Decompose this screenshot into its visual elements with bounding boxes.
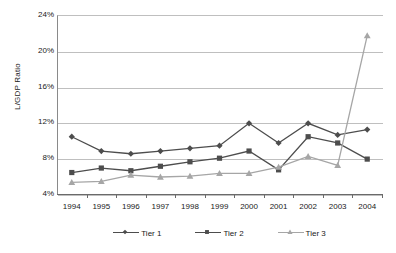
legend-marker-square-icon: [204, 229, 210, 235]
legend-marker-diamond-icon: [122, 229, 128, 235]
legend-swatch: [278, 228, 304, 238]
series-overlay: [0, 0, 396, 253]
legend-label: Tier 3: [306, 229, 326, 238]
data-point-marker: [99, 165, 104, 170]
line-chart: L/GDP Ratio 4%8%12%16%20%24% 19941995199…: [0, 0, 396, 253]
data-point-marker: [158, 164, 163, 169]
series-tier-1: [69, 120, 371, 157]
data-point-marker: [246, 148, 251, 153]
legend-item-tier-1[interactable]: Tier 1: [113, 228, 161, 238]
legend-item-tier-3[interactable]: Tier 3: [278, 228, 326, 238]
data-point-marker: [69, 170, 74, 175]
series-tier-3: [68, 32, 370, 185]
data-point-marker: [157, 148, 163, 154]
data-point-marker: [365, 156, 370, 161]
data-point-marker: [287, 229, 292, 234]
legend-item-tier-2[interactable]: Tier 2: [195, 228, 243, 238]
data-point-marker: [335, 132, 341, 138]
data-point-marker: [187, 159, 192, 164]
chart-legend: Tier 1Tier 2Tier 3: [57, 224, 382, 242]
series-line: [72, 137, 367, 173]
legend-label: Tier 2: [223, 229, 243, 238]
series-tier-2: [69, 134, 370, 175]
data-point-marker: [364, 126, 370, 132]
legend-marker-triangle-icon: [287, 229, 293, 235]
data-point-marker: [335, 140, 340, 145]
data-point-marker: [98, 148, 104, 154]
data-point-marker: [69, 134, 75, 140]
series-line: [72, 123, 367, 153]
legend-swatch: [113, 228, 139, 238]
data-point-marker: [123, 230, 128, 235]
legend-swatch: [195, 228, 221, 238]
data-point-marker: [306, 134, 311, 139]
data-point-marker: [187, 145, 193, 151]
data-point-marker: [217, 156, 222, 161]
legend-label: Tier 1: [141, 229, 161, 238]
data-point-marker: [305, 153, 312, 159]
data-point-marker: [364, 32, 371, 38]
data-point-marker: [205, 230, 209, 234]
data-point-marker: [128, 151, 134, 157]
